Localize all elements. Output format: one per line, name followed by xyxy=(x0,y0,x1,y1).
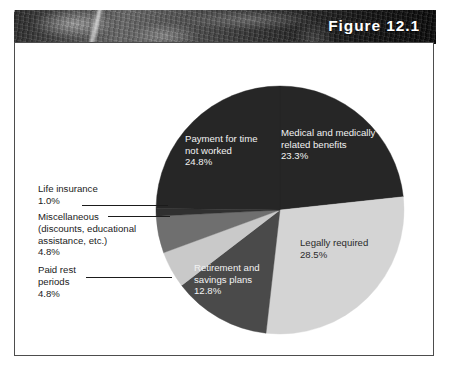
leader-line-paid-rest-periods xyxy=(86,277,172,278)
slice-label-legally-required: Legally required 28.5% xyxy=(300,237,368,260)
pie-chart xyxy=(155,85,405,335)
callout-label-miscellaneous: Miscellaneous (discounts, educational as… xyxy=(38,211,136,258)
slice-label-payment-for-time-not-worked: Payment for time not worked 24.8% xyxy=(185,133,258,168)
callout-label-paid-rest-periods: Paid rest periods 4.8% xyxy=(38,264,76,299)
pie-slice xyxy=(266,197,404,334)
pie-chart-svg xyxy=(155,85,405,335)
leader-line-miscellaneous xyxy=(108,216,170,217)
leader-line-life-insurance xyxy=(82,205,168,206)
slice-label-medical-and-medically-related-benefits: Medical and medically related benefits 2… xyxy=(281,127,375,162)
figure-title: Figure 12.1 xyxy=(328,17,420,35)
slice-label-retirement-and-savings-plans: Retirement and savings plans 12.8% xyxy=(194,262,260,297)
figure-header-band: Figure 12.1 xyxy=(14,10,436,44)
callout-label-life-insurance: Life insurance 1.0% xyxy=(38,183,98,207)
figure-container: Figure 12.1 Payment for time not worked … xyxy=(0,0,451,368)
